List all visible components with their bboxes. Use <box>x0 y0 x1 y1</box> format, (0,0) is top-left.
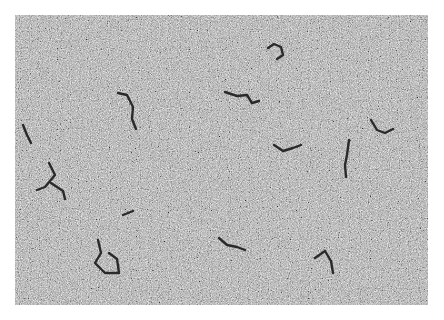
grain-background <box>15 15 428 305</box>
micrograph-texture <box>15 15 428 305</box>
micrograph-image <box>15 15 428 305</box>
